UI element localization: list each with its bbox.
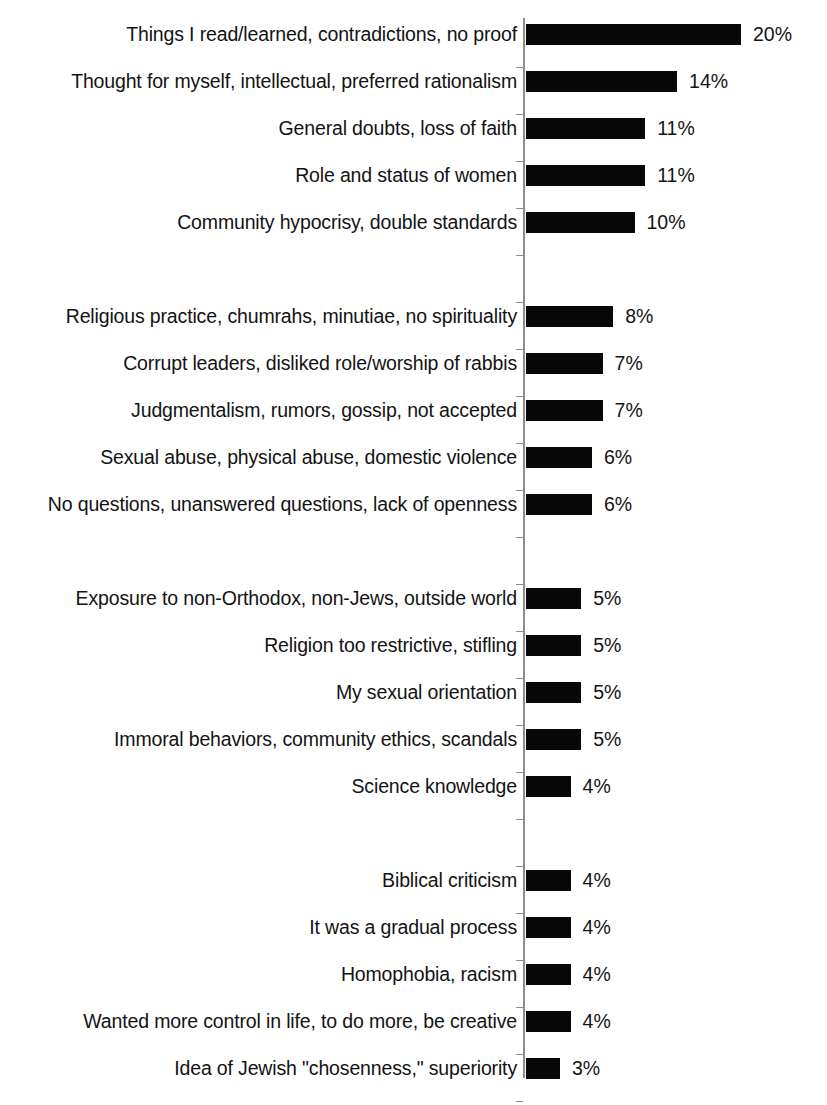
bar [526,1011,571,1032]
bar-value-label: 5% [593,729,621,750]
bar-value-label: 11% [657,118,695,139]
bar-category-label: Sexual abuse, physical abuse, domestic v… [17,447,517,468]
bar-row: Science knowledge4% [0,776,827,823]
bar-row: General doubts, loss of faith11% [0,118,827,165]
bar-category-label: It was a gradual process [17,917,517,938]
bar-value-label: 7% [615,353,643,374]
bar-category-label: Role and status of women [17,165,517,186]
bar-category-label: Idea of Jewish "chosenness," superiority [17,1058,517,1079]
bar-category-label: Judgmentalism, rumors, gossip, not accep… [17,400,517,421]
bar [526,870,571,891]
bar [526,776,571,797]
bar [526,682,581,703]
bar-value-label: 20% [753,24,792,45]
bar [526,588,581,609]
bar-category-label: General doubts, loss of faith [17,118,517,139]
bar-value-label: 10% [647,212,686,233]
bar-row: Religious practice, chumrahs, minutiae, … [0,306,827,353]
bar-value-label: 8% [625,306,653,327]
bar [526,635,581,656]
bar-category-label: My sexual orientation [17,682,517,703]
bar-category-label: Thought for myself, intellectual, prefer… [17,71,517,92]
bar-value-label: 4% [583,917,611,938]
bar-row: No questions, unanswered questions, lack… [0,494,827,541]
bar-value-label: 6% [604,447,632,468]
bar-category-label: Religion too restrictive, stifling [17,635,517,656]
bar-row: Immoral behaviors, community ethics, sca… [0,729,827,776]
axis-tick [516,866,523,867]
bar-row: Role and status of women11% [0,165,827,212]
bar-value-label: 3% [572,1058,600,1079]
axis-tick [516,302,523,303]
bar-value-label: 7% [615,400,643,421]
bar-value-label: 4% [583,870,611,891]
bar-row: Homophobia, racism4% [0,964,827,1011]
bar-value-label: 4% [583,776,611,797]
bar [526,165,645,186]
bar-category-label: Science knowledge [17,776,517,797]
bar-category-label: Corrupt leaders, disliked role/worship o… [17,353,517,374]
bar-value-label: 5% [593,635,621,656]
axis-tick [516,584,523,585]
bar-row: Corrupt leaders, disliked role/worship o… [0,353,827,400]
bar [526,118,645,139]
bar [526,917,571,938]
bar-value-label: 5% [593,682,621,703]
bar-row: Biblical criticism4% [0,870,827,917]
bar-category-label: Religious practice, chumrahs, minutiae, … [17,306,517,327]
bar-row: My sexual orientation5% [0,682,827,729]
bar-row: Sexual abuse, physical abuse, domestic v… [0,447,827,494]
bar-value-label: 14% [689,71,728,92]
bar-row: Community hypocrisy, double standards10% [0,212,827,259]
bar-category-label: Biblical criticism [17,870,517,891]
bar-category-label: Immoral behaviors, community ethics, sca… [17,729,517,750]
bar [526,71,677,92]
bar [526,212,635,233]
bar [526,306,613,327]
bar-row: Thought for myself, intellectual, prefer… [0,71,827,118]
bar-category-label: Wanted more control in life, to do more,… [17,1011,517,1032]
bar-row: It was a gradual process4% [0,917,827,964]
bar [526,400,603,421]
bar-value-label: 5% [593,588,621,609]
bar [526,964,571,985]
bar-row: Things I read/learned, contradictions, n… [0,24,827,71]
bar-row: Exposure to non-Orthodox, non-Jews, outs… [0,588,827,635]
bar-value-label: 4% [583,1011,611,1032]
bar-category-label: Community hypocrisy, double standards [17,212,517,233]
bar-category-label: Things I read/learned, contradictions, n… [17,24,517,45]
bar-category-label: Exposure to non-Orthodox, non-Jews, outs… [17,588,517,609]
bar [526,24,741,45]
bar-value-label: 11% [657,165,695,186]
bar-category-label: No questions, unanswered questions, lack… [17,494,517,515]
bar-row: Religion too restrictive, stifling5% [0,635,827,682]
bar [526,353,603,374]
bar [526,447,592,468]
bar-row: Judgmentalism, rumors, gossip, not accep… [0,400,827,447]
bar [526,1058,560,1079]
bar-value-label: 4% [583,964,611,985]
bar-value-label: 6% [604,494,632,515]
bar-row: Idea of Jewish "chosenness," superiority… [0,1058,827,1105]
bar-row: Wanted more control in life, to do more,… [0,1011,827,1058]
bar [526,494,592,515]
bar [526,729,581,750]
bar-category-label: Homophobia, racism [17,964,517,985]
